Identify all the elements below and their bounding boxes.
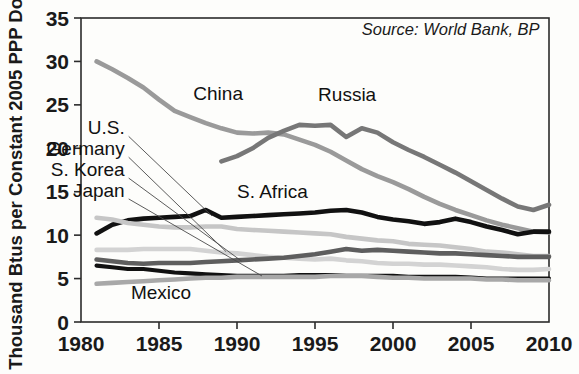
series-label-mexico: Mexico xyxy=(131,282,191,303)
y-axis-title: Thousand Btus per Constant 2005 PPP Doll… xyxy=(5,0,26,370)
chart-canvas: Thousand Btus per Constant 2005 PPP Doll… xyxy=(0,0,579,374)
y-tick-label: 35 xyxy=(46,7,70,30)
series-label-s-africa: S. Africa xyxy=(237,181,308,202)
x-axis-ticks-group: 1980198519901995200020052010 xyxy=(58,322,573,355)
series-label-russia: Russia xyxy=(318,84,377,105)
series-label-japan: Japan xyxy=(73,180,125,201)
y-tick-label: 10 xyxy=(46,224,69,247)
y-tick-label: 0 xyxy=(57,311,69,334)
series-line xyxy=(97,210,549,234)
source-annotation: Source: World Bank, BP xyxy=(362,20,540,38)
y-axis-label-group: Thousand Btus per Constant 2005 PPP Doll… xyxy=(5,0,26,370)
x-tick-label: 1990 xyxy=(214,332,261,355)
annotations-group: Source: World Bank, BP xyxy=(362,20,540,38)
series-label-u-s: U.S. xyxy=(88,117,125,138)
x-tick-label: 1995 xyxy=(292,332,339,355)
x-tick-label: 2000 xyxy=(370,332,417,355)
y-tick-label: 25 xyxy=(46,93,70,116)
x-tick-label: 2010 xyxy=(526,332,573,355)
y-tick-label: 5 xyxy=(57,267,69,290)
x-tick-label: 1980 xyxy=(58,332,105,355)
series-label-s-korea: S. Korea xyxy=(51,159,125,180)
series-label-china: China xyxy=(193,83,243,104)
series-label-germany: Germany xyxy=(47,138,126,159)
x-tick-label: 1985 xyxy=(136,332,183,355)
series-labels-group: ChinaRussiaS. AfricaU.S.GermanyS. KoreaJ… xyxy=(47,83,377,304)
label-leader-line xyxy=(129,157,226,251)
energy-intensity-chart: Thousand Btus per Constant 2005 PPP Doll… xyxy=(0,0,579,374)
label-leader-line xyxy=(129,136,212,216)
x-tick-label: 2005 xyxy=(448,332,495,355)
y-tick-label: 15 xyxy=(46,180,70,203)
y-tick-label: 30 xyxy=(46,50,69,73)
